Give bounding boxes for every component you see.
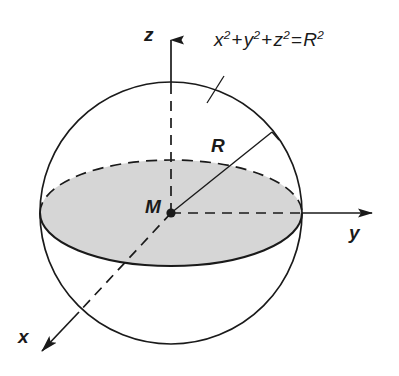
diagram-canvas: [0, 0, 399, 376]
sphere-diagram: z y x M R x2+y2+z2=R2: [0, 0, 399, 376]
equation-leader-line: [207, 76, 224, 103]
equation-term-x: x: [214, 29, 224, 50]
sphere-equation: x2+y2+z2=R2: [214, 28, 324, 51]
z-axis-label: z: [144, 24, 154, 46]
equation-term-R: R: [303, 29, 317, 50]
y-axis-label: y: [349, 222, 360, 244]
radius-label: R: [211, 135, 225, 157]
equation-term-z: z: [274, 29, 284, 50]
equation-exp-z: 2: [283, 28, 290, 41]
x-axis-label: x: [18, 326, 29, 348]
center-point-marker: [166, 208, 175, 217]
equation-exp-R: 2: [317, 28, 324, 41]
x-axis-visible-segment: [42, 312, 79, 351]
equation-plus-1: +: [230, 29, 243, 50]
equation-term-y: y: [244, 29, 254, 50]
equation-plus-2: +: [260, 29, 273, 50]
equation-equals: =: [290, 29, 303, 50]
center-point-label: M: [145, 196, 161, 218]
